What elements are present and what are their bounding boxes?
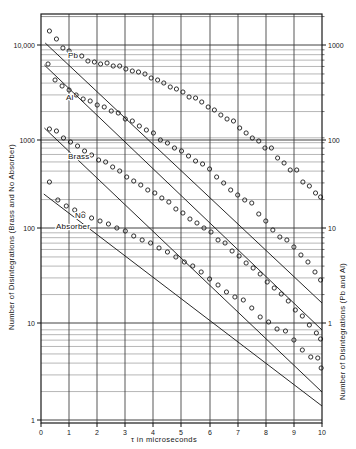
x-tick-label: 8 xyxy=(264,429,268,436)
curve-label: No xyxy=(75,211,86,220)
left-tick-label: 100 xyxy=(23,225,35,232)
chart-background xyxy=(0,0,356,449)
right-tick-label: 1 xyxy=(328,320,332,327)
right-axis-title: Number of Disintegrations (Pb and Al) xyxy=(338,263,347,400)
curve-label: Al xyxy=(66,93,74,102)
x-tick-label: 7 xyxy=(236,429,240,436)
curve-label: Brass xyxy=(68,152,89,161)
right-tick-label: 1000 xyxy=(328,42,344,49)
x-tick-label: 1 xyxy=(67,429,71,436)
x-tick-label: 6 xyxy=(208,429,212,436)
figure-container: 10,0001000100101 1000100101 012345678910… xyxy=(0,0,356,449)
left-tick-label: 10,000 xyxy=(14,42,36,49)
left-axis-title: Number of Disintegrations (Brass and No … xyxy=(7,144,16,330)
curve-label: Pb xyxy=(68,51,79,60)
x-tick-label: 2 xyxy=(95,429,99,436)
left-tick-label: 10 xyxy=(27,320,35,327)
x-tick-label: 9 xyxy=(292,429,296,436)
left-tick-label: 1000 xyxy=(19,137,35,144)
curve-label: Absorber xyxy=(56,222,90,231)
semilog-decay-chart: 10,0001000100101 1000100101 012345678910… xyxy=(0,0,356,449)
x-tick-label: 10 xyxy=(318,429,326,436)
x-tick-label: 3 xyxy=(123,429,127,436)
x-tick-label: 0 xyxy=(39,429,43,436)
right-tick-label: 10 xyxy=(328,225,336,232)
x-axis-title: τ in microseconds xyxy=(131,435,197,444)
right-tick-label: 100 xyxy=(328,137,340,144)
left-tick-label: 1 xyxy=(31,417,35,424)
